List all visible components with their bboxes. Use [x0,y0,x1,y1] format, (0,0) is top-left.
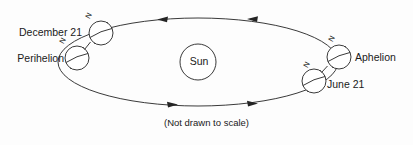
earth-june-globe [302,69,326,93]
earth-perihelion-globe [65,46,89,70]
bottom-arrow-right-icon [247,101,258,107]
top-arrow-left-icon [157,17,168,23]
label-june-21: June 21 [327,79,364,90]
earth-aphelion [327,45,351,69]
earth-june [302,69,326,93]
earth-perihelion [65,46,89,70]
caption-not-drawn-to-scale: (Not drawn to scale) [0,118,413,128]
earth-aphelion-globe [327,45,351,69]
label-aphelion: Aphelion [355,52,396,63]
label-december-21: December 21 [8,27,82,38]
earth-december [89,21,113,45]
label-sun: Sun [181,56,217,67]
label-perihelion: Perihelion [4,53,64,64]
orbit-diagram: December 21 Perihelion Aphelion June 21 … [0,0,413,145]
bottom-arrow-left-icon [167,102,178,108]
earth-december-perihelion-connector [85,42,91,50]
earth-aphelion-june-connector [322,66,328,73]
earth-december-globe [89,21,113,45]
